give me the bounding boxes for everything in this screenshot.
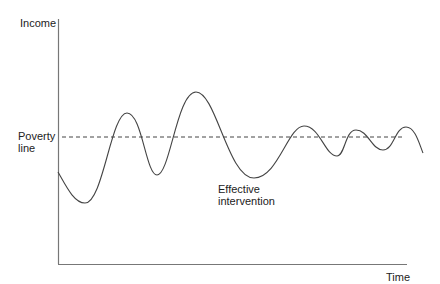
income-diagram xyxy=(0,0,440,284)
poverty-line-label-line2: line xyxy=(18,142,35,154)
y-axis-label: Income xyxy=(20,17,56,29)
intervention-label-line2: intervention xyxy=(218,195,275,207)
poverty-line-label-line1: Poverty xyxy=(18,130,55,142)
intervention-label-line1: Effective xyxy=(218,183,260,195)
x-axis-label: Time xyxy=(386,271,410,283)
